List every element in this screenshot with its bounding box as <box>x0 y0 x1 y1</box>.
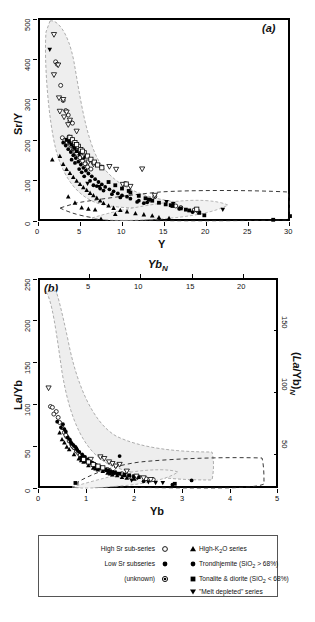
data-point-b-6-4 <box>101 466 105 470</box>
legend-filled-square-icon <box>187 574 199 586</box>
legend-filled-circle-icon <box>159 559 171 571</box>
data-point-b-1-23 <box>74 445 78 449</box>
data-point-b-3-7 <box>123 473 127 477</box>
data-point-b-0-1 <box>50 405 54 409</box>
data-point-b-3-8 <box>127 474 131 478</box>
legend-filled-circle-icon-2 <box>187 559 199 571</box>
data-point-b-4-1 <box>153 481 158 485</box>
legend-left-label-2: (unknown) <box>51 575 155 583</box>
data-point-b-6-2 <box>91 462 95 466</box>
data-point-b-6-1 <box>86 460 90 464</box>
legend-left-label-0: High Sr sub-series <box>51 545 155 553</box>
data-point-b-2-14 <box>65 444 70 448</box>
data-point-b-5-0 <box>46 386 51 391</box>
legend-open-circle-icon <box>159 544 171 556</box>
data-point-b-1-34 <box>75 448 79 452</box>
legend-right-label-3: "Melt depleted" series <box>199 588 263 596</box>
data-point-b-0-19 <box>56 415 60 419</box>
figure-root: (a) Sr/Y 0 100 200 300 400 500 0 5 10 15… <box>0 0 315 622</box>
data-point-b-1-29 <box>190 479 194 483</box>
legend-right-label-2: Tonalite & diorite (SiO2 < 68%) <box>199 575 289 585</box>
data-point-b-1-33 <box>70 442 74 446</box>
legend-left-label-1: Low Sr subseries <box>51 560 155 568</box>
data-point-b-3-15 <box>106 468 110 472</box>
data-point-b-2-18 <box>60 437 65 441</box>
data-point-b-2-0 <box>57 430 62 434</box>
data-point-b-1-1 <box>59 426 63 430</box>
data-point-b-1-27 <box>118 454 122 458</box>
legend-filled-triangle-up-icon <box>187 544 199 556</box>
data-point-b-1-22 <box>68 437 72 441</box>
data-point-b-1-21 <box>63 427 67 431</box>
data-point-b-0-3 <box>52 412 56 416</box>
data-point-b-1-2 <box>61 422 65 426</box>
legend-half-filled-circle-icon <box>159 574 171 586</box>
data-point-b-3-6 <box>118 472 122 476</box>
data-point-b-3-14 <box>173 482 177 486</box>
data-point-b-3-11 <box>74 481 78 485</box>
legend-filled-triangle-down-icon <box>187 587 199 599</box>
data-point-b-4-3 <box>161 481 166 485</box>
panel-b-data-layer <box>0 0 315 622</box>
data-point-b-1-0 <box>55 420 59 424</box>
legend-box: High Sr sub-series Low Sr subseries (unk… <box>38 535 278 597</box>
legend-right-label-0: High-K2O series <box>199 545 247 555</box>
panel-b-high-field <box>46 291 214 480</box>
data-point-b-6-0 <box>82 457 86 461</box>
data-point-b-3-12 <box>111 470 115 474</box>
legend-right-label-1: Trondhjemite (SiO2 > 68%) <box>199 560 278 570</box>
data-point-b-6-3 <box>96 464 100 468</box>
